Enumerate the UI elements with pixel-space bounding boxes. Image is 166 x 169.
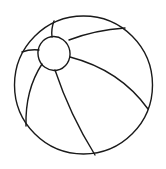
beach-ball-illustration xyxy=(0,0,166,169)
stripe-bottom xyxy=(55,70,95,155)
ball-outline xyxy=(15,16,153,154)
stripe-top-right xyxy=(69,28,125,40)
stripe-right xyxy=(70,57,148,109)
ball-cap xyxy=(35,34,72,73)
stripe-left xyxy=(26,64,42,126)
beach-ball-icon xyxy=(0,0,166,169)
